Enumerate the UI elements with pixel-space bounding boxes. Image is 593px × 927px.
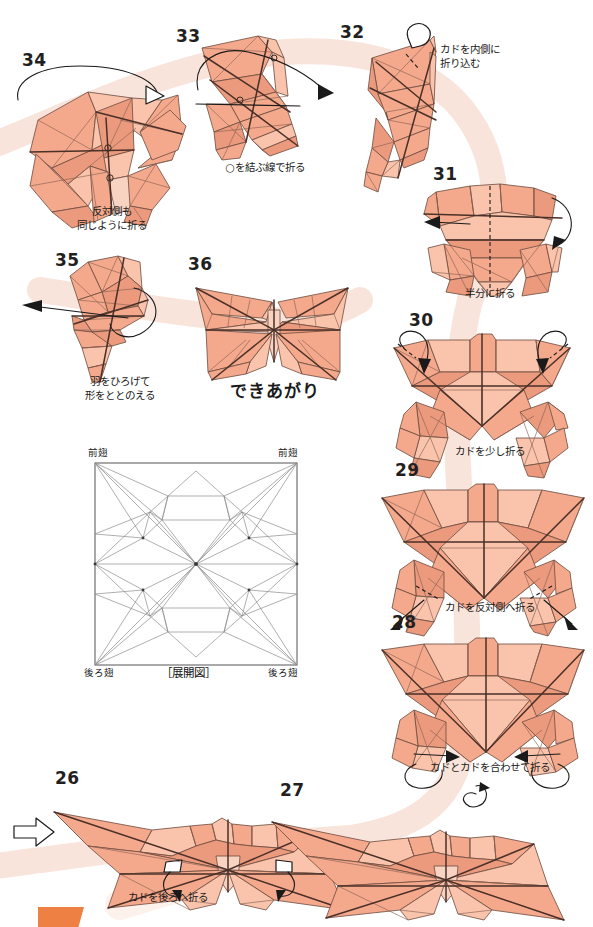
step-number-27: 27 — [280, 782, 305, 799]
step-caption-33: ○を結ぶ線で折る — [190, 160, 340, 174]
page-corner-tab — [38, 907, 84, 927]
step-number-28: 28 — [392, 614, 417, 631]
crease-pattern-label-top-right: 前翅 — [278, 448, 298, 458]
step-number-32: 32 — [340, 24, 365, 41]
figure-step-33 — [196, 36, 334, 160]
figure-step-31 — [424, 184, 571, 296]
figure-step-32 — [364, 24, 436, 192]
step-number-26: 26 — [55, 770, 80, 787]
crease-pattern-vertices — [94, 537, 299, 592]
step-number-34: 34 — [22, 52, 47, 69]
step-number-29: 29 — [395, 462, 420, 479]
figure-step-35 — [22, 256, 156, 382]
step-caption-32: カドを内側に 折り込む — [440, 42, 548, 70]
step-caption-31: 半分に折る — [425, 286, 555, 300]
step-caption-34: 反対側も 同じように折る — [52, 204, 172, 232]
step-number-35: 35 — [55, 252, 80, 269]
crease-pattern-label-bottom-left: 後ろ翅 — [84, 668, 114, 678]
step-caption-26: カドを後ろへ折る — [100, 890, 235, 904]
step-number-36: 36 — [188, 256, 213, 273]
step-caption-30: カドを少し折る — [420, 444, 560, 458]
crease-pattern-label-top-left: 前翅 — [88, 448, 108, 458]
step-number-33: 33 — [176, 28, 201, 45]
step-number-30: 30 — [409, 312, 434, 329]
figure-step-28 — [382, 638, 584, 807]
figure-step-27 — [272, 822, 564, 920]
crease-pattern-lines — [95, 463, 297, 665]
figure-step-36 — [196, 288, 348, 380]
step-caption-36: できあがり — [210, 380, 340, 403]
step-caption-35: 羽をひろげて 形をととのえる — [60, 374, 180, 402]
step-caption-28: カドとカドを合わせて折る — [400, 760, 580, 774]
crease-pattern-label-bottom-right: 後ろ翅 — [268, 668, 298, 678]
crease-pattern-title: ［展開図］ — [161, 668, 216, 680]
step-number-31: 31 — [433, 166, 458, 183]
step-caption-29: カドを反対側へ折る — [412, 600, 567, 614]
